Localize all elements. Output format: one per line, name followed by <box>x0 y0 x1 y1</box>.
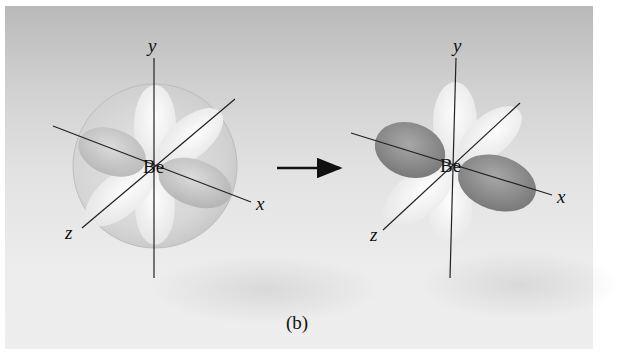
x-axis-label-right: x <box>556 186 566 207</box>
atom-label-right: Be <box>440 155 461 176</box>
figure-caption: (b) <box>286 312 308 334</box>
right-orbital-group: y x z Be <box>351 35 566 278</box>
y-axis-label-left: y <box>146 35 157 56</box>
z-axis-label-right: z <box>369 224 378 245</box>
x-axis-label-left: x <box>255 193 265 214</box>
atom-label-left: Be <box>143 156 164 177</box>
z-axis-label-left: z <box>64 222 73 243</box>
y-axis-label-right: y <box>451 35 462 56</box>
left-orbital-group: y x z Be <box>53 35 265 278</box>
